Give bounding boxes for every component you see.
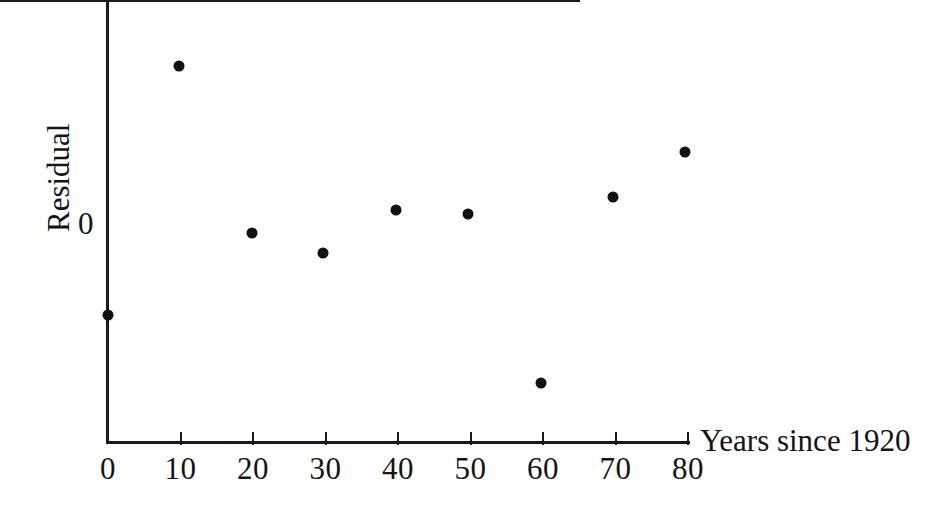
x-axis-tick-10 [180,432,182,445]
x-axis-tick-30 [325,432,327,445]
data-point [608,192,619,203]
data-point [318,248,329,259]
data-point [174,61,185,72]
x-axis-tick-60 [542,432,544,445]
data-point [680,147,691,158]
x-axis-tick-label-70: 70 [600,452,632,486]
x-axis-tick-label-20: 20 [237,452,269,486]
data-point [103,310,114,321]
x-axis-tick-80 [687,432,689,445]
x-axis-tick-label-40: 40 [382,452,414,486]
x-axis-tick-label-0: 0 [100,452,116,486]
residual-plot-figure: 01020304050607080 Residual 0 Years since… [0,0,950,507]
x-axis-tick-50 [470,432,472,445]
data-point [247,228,258,239]
x-axis-tick-label-10: 10 [165,452,197,486]
zero-residual-reference-line [0,0,580,2]
data-point [391,205,402,216]
x-axis-label: Years since 1920 [700,424,910,458]
x-axis-tick-label-30: 30 [310,452,342,486]
x-axis-tick-label-50: 50 [455,452,487,486]
x-axis-tick-70 [615,432,617,445]
data-point [536,378,547,389]
x-axis-tick-40 [397,432,399,445]
y-axis-line [106,0,109,444]
y-axis-label: Residual [42,124,76,233]
data-point [463,209,474,220]
y-axis-zero-label: 0 [78,207,94,241]
x-axis-tick-label-60: 60 [527,452,559,486]
x-axis-tick-20 [252,432,254,445]
